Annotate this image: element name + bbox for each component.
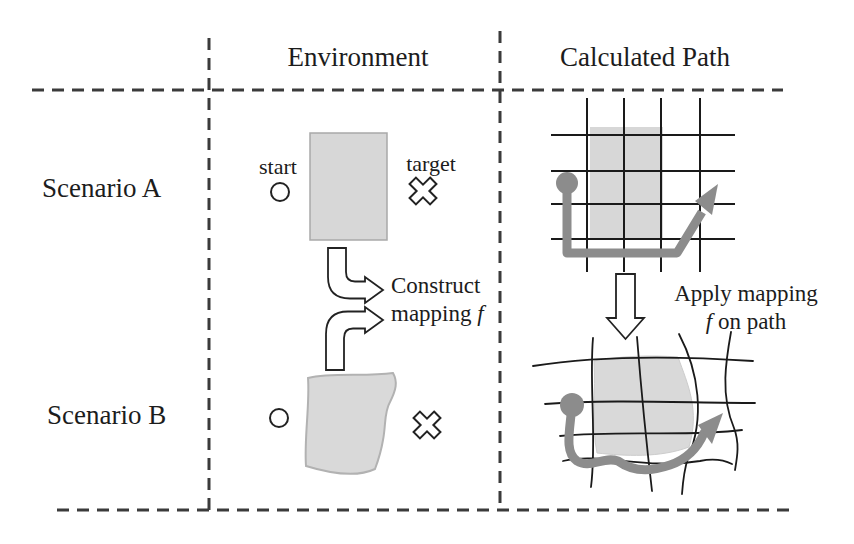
scenario-a-calculated-path bbox=[551, 98, 735, 272]
target-label: target bbox=[406, 151, 456, 177]
route-start-dot bbox=[560, 393, 584, 417]
scenario-b-calculated-path bbox=[533, 332, 755, 494]
start-label: start bbox=[259, 154, 297, 180]
bent-arrow-top-icon bbox=[328, 248, 383, 303]
obstacle-blob bbox=[306, 373, 396, 474]
scenario-b-environment bbox=[270, 373, 448, 474]
target-cross-icon bbox=[406, 404, 447, 445]
apply-line2-rest: on path bbox=[718, 309, 786, 334]
start-marker-circle bbox=[270, 409, 288, 427]
apply-mapping-annotation: Apply mapping f on path bbox=[674, 280, 818, 336]
route-start-dot bbox=[556, 172, 578, 194]
bent-arrow-bottom-icon bbox=[326, 307, 383, 370]
construct-line2-word: mapping bbox=[391, 301, 472, 326]
apply-f-symbol: f bbox=[706, 309, 712, 334]
column-header-environment: Environment bbox=[288, 42, 429, 73]
obstacle-rect bbox=[310, 133, 387, 240]
construct-f-symbol: f bbox=[477, 301, 483, 326]
column-header-calculated-path: Calculated Path bbox=[560, 42, 730, 73]
construct-mapping-annotation: Construct mapping f bbox=[391, 272, 484, 328]
scenario-a-environment bbox=[271, 133, 444, 240]
apply-line1: Apply mapping bbox=[674, 281, 818, 306]
obstacle-rect-on-grid bbox=[590, 127, 663, 238]
construct-mapping-arrows bbox=[326, 248, 383, 370]
down-arrow-icon bbox=[607, 274, 644, 339]
figure-root: Environment Calculated Path Scenario A S… bbox=[0, 0, 854, 544]
row-label-scenario-a: Scenario A bbox=[42, 173, 161, 204]
construct-line1: Construct bbox=[391, 273, 480, 298]
start-marker-circle bbox=[271, 183, 289, 201]
warped-grid-vline bbox=[725, 332, 737, 470]
row-label-scenario-b: Scenario B bbox=[47, 400, 166, 431]
